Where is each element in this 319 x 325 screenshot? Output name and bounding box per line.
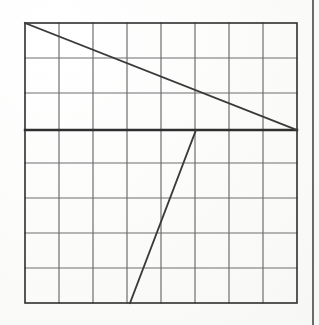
figure-page: Hand-drawn line graph on square grid pap… (0, 0, 319, 325)
grid-figure (0, 0, 319, 325)
rising-line (130, 130, 196, 303)
